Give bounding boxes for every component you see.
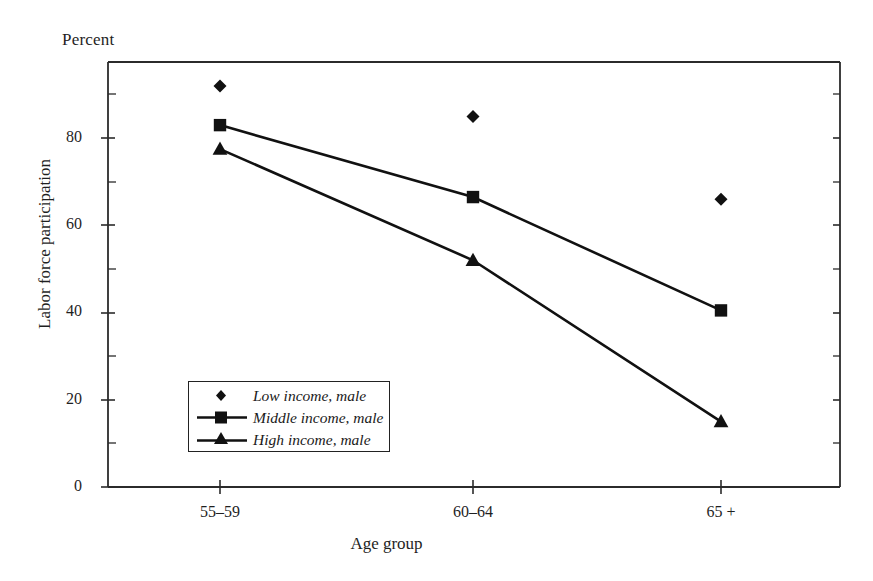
series-1 bbox=[214, 79, 728, 205]
marker-diamond bbox=[715, 193, 728, 206]
marker-diamond bbox=[467, 110, 480, 123]
marker-triangle bbox=[714, 414, 729, 427]
legend-item-high-income[interactable]: High income, male bbox=[189, 428, 389, 451]
marker-square bbox=[467, 191, 479, 203]
marker-diamond bbox=[214, 79, 227, 92]
series-line bbox=[220, 125, 721, 310]
legend-symbol-square bbox=[189, 406, 253, 429]
legend-label-high-income: High income, male bbox=[253, 431, 371, 449]
legend-symbol-diamond bbox=[189, 384, 253, 407]
marker-square bbox=[214, 119, 226, 131]
series-2 bbox=[214, 119, 727, 317]
series-layer bbox=[213, 79, 729, 427]
legend[interactable]: Low income, male Middle income, male Hig… bbox=[188, 381, 390, 452]
chart-figure: Percent Labor force participation 80 60 … bbox=[0, 0, 873, 581]
legend-label-middle-income: Middle income, male bbox=[253, 409, 383, 427]
legend-label-low-income: Low income, male bbox=[253, 387, 366, 405]
marker-triangle bbox=[213, 142, 228, 155]
legend-item-middle-income[interactable]: Middle income, male bbox=[189, 406, 389, 429]
legend-item-low-income[interactable]: Low income, male bbox=[189, 384, 389, 407]
legend-symbol-triangle bbox=[189, 428, 253, 451]
y-minor-ticks bbox=[108, 94, 116, 443]
plot-canvas bbox=[0, 0, 873, 581]
y-right-minor-ticks bbox=[833, 94, 840, 443]
marker-square bbox=[715, 304, 727, 316]
